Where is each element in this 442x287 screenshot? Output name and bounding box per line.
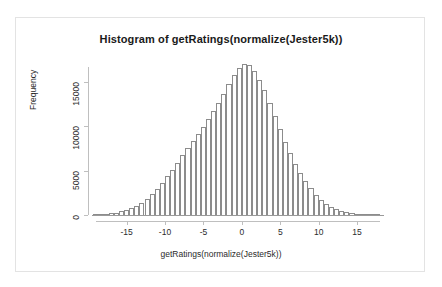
x-axis-tick-label: 5 [278,227,283,237]
x-axis-tick [242,221,243,225]
x-axis-tick-label: -5 [200,227,208,237]
histogram-screenshot: Histogram of getRatings(normalize(Jester… [0,0,442,287]
x-axis-line [96,221,380,222]
y-axis-tick-label: 0 [52,210,80,220]
y-axis-line [88,67,89,215]
baseline-rule [92,215,384,216]
x-axis-tick-label: 15 [352,227,361,237]
y-axis-title: Frequency [28,70,38,110]
x-axis-tick-label: -10 [159,227,171,237]
x-axis-title: getRatings(normalize(Jester5k)) [0,249,442,259]
x-axis-tick-label: 0 [239,227,244,237]
x-axis-tick-label: -15 [120,227,132,237]
x-axis-tick [203,221,204,225]
x-axis-tick [319,221,320,225]
y-axis-tick-label: 10000 [52,121,80,131]
histogram-bars [92,60,384,215]
x-axis-tick-label: 10 [314,227,323,237]
x-axis-tick [165,221,166,225]
x-axis-tick [127,221,128,225]
y-axis-tick-label: 5000 [52,166,80,176]
x-axis-tick [357,221,358,225]
chart-title: Histogram of getRatings(normalize(Jester… [0,33,442,45]
y-axis-tick [84,215,88,216]
y-axis-tick [84,171,88,172]
plot-area [92,60,384,215]
x-axis-tick [280,221,281,225]
y-axis-tick [84,126,88,127]
y-axis-tick-label: 15000 [52,77,80,87]
y-axis-tick [84,82,88,83]
